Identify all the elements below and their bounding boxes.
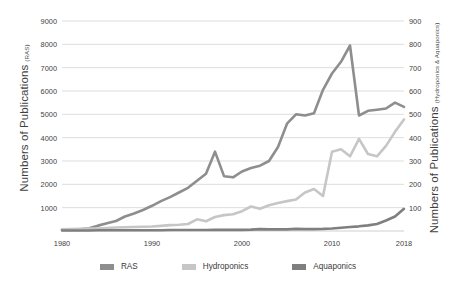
- legend-swatch-icon: [100, 264, 114, 270]
- series-line-hydroponics: [62, 119, 404, 229]
- legend-item-ras[interactable]: RAS: [100, 262, 138, 271]
- legend-item-hydroponics[interactable]: Hydroponics: [182, 262, 249, 271]
- caption-strip: [0, 287, 456, 296]
- legend-item-label: RAS: [121, 262, 138, 271]
- chart-legend: RASHydroponicsAquaponics: [0, 262, 456, 271]
- legend-swatch-icon: [182, 264, 196, 270]
- chart-figure: Numbers of Publications (RAS) Numbers of…: [0, 0, 456, 296]
- legend-item-aquaponics[interactable]: Aquaponics: [292, 262, 356, 271]
- legend-item-label: Hydroponics: [203, 262, 249, 271]
- plot-area: [0, 0, 456, 296]
- gridlines: [62, 21, 404, 231]
- legend-item-label: Aquaponics: [313, 262, 356, 271]
- legend-swatch-icon: [292, 264, 306, 270]
